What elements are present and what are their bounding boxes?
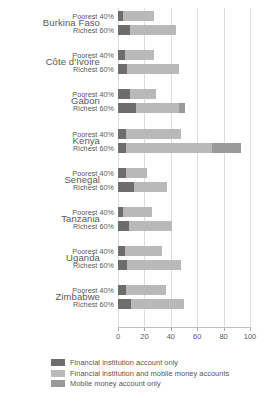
legend-swatch xyxy=(51,370,65,377)
bar-segment[interactable] xyxy=(118,50,125,60)
bar-segment[interactable] xyxy=(126,143,212,153)
quintile-label: Richest 60% xyxy=(62,144,114,153)
quintile-label: Richest 60% xyxy=(62,183,114,192)
legend-label: Financial institution account only xyxy=(70,358,178,367)
bar-segment[interactable] xyxy=(118,299,131,309)
stacked-bar[interactable] xyxy=(118,246,162,256)
stacked-bar[interactable] xyxy=(118,25,176,35)
bar-segment[interactable] xyxy=(118,260,127,270)
stacked-bar[interactable] xyxy=(118,285,166,295)
x-axis-tick xyxy=(118,328,119,331)
stacked-bar[interactable] xyxy=(118,299,184,309)
quintile-label: Poorest 40% xyxy=(62,51,114,60)
quintile-label: Richest 60% xyxy=(62,261,114,270)
stacked-bar[interactable] xyxy=(118,129,181,139)
bar-segment[interactable] xyxy=(118,221,129,231)
bar-segment[interactable] xyxy=(134,182,167,192)
bar-segment[interactable] xyxy=(118,143,126,153)
legend-item[interactable]: Financial institution account only xyxy=(51,358,178,367)
bar-row[interactable]: Richest 60% xyxy=(0,181,264,195)
x-axis-tick xyxy=(171,328,172,331)
bar-segment[interactable] xyxy=(127,64,178,74)
stacked-bar[interactable] xyxy=(118,168,147,178)
bar-row[interactable]: Poorest 40% xyxy=(0,10,264,24)
stacked-bar[interactable] xyxy=(118,207,152,217)
bar-segment[interactable] xyxy=(125,50,154,60)
quintile-label: Richest 60% xyxy=(62,65,114,74)
bar-segment[interactable] xyxy=(118,89,130,99)
bar-segment[interactable] xyxy=(129,221,173,231)
x-axis-tick-label: 100 xyxy=(238,332,262,341)
x-axis-line xyxy=(118,327,251,328)
stacked-bar[interactable] xyxy=(118,143,241,153)
bar-segment[interactable] xyxy=(136,103,178,113)
bar-row[interactable]: Richest 60% xyxy=(0,259,264,273)
country-group: Burkina FasoPoorest 40%Richest 60% xyxy=(0,10,264,49)
bar-row[interactable]: Richest 60% xyxy=(0,220,264,234)
x-axis-tick xyxy=(197,328,198,331)
x-axis-tick xyxy=(250,328,251,331)
bar-segment[interactable] xyxy=(123,207,152,217)
bar-segment[interactable] xyxy=(118,285,126,295)
stacked-bar[interactable] xyxy=(118,64,179,74)
bar-segment[interactable] xyxy=(123,11,153,21)
stacked-bar[interactable] xyxy=(118,11,154,21)
x-axis-tick-label: 40 xyxy=(159,332,183,341)
bar-row[interactable]: Poorest 40% xyxy=(0,284,264,298)
x-axis-tick-label: 60 xyxy=(185,332,209,341)
bar-segment[interactable] xyxy=(126,168,147,178)
bar-row[interactable]: Richest 60% xyxy=(0,102,264,116)
stacked-bar-chart: 020406080100Burkina FasoPoorest 40%Riche… xyxy=(0,0,264,405)
stacked-bar[interactable] xyxy=(118,221,172,231)
quintile-label: Poorest 40% xyxy=(62,169,114,178)
legend-swatch xyxy=(51,359,65,366)
bar-row[interactable]: Richest 60% xyxy=(0,63,264,77)
quintile-label: Poorest 40% xyxy=(62,286,114,295)
x-axis-tick xyxy=(144,328,145,331)
bar-row[interactable]: Richest 60% xyxy=(0,142,264,156)
quintile-label: Richest 60% xyxy=(62,222,114,231)
bar-segment[interactable] xyxy=(130,25,176,35)
quintile-label: Poorest 40% xyxy=(62,12,114,21)
stacked-bar[interactable] xyxy=(118,260,181,270)
bar-segment[interactable] xyxy=(127,260,181,270)
bar-segment[interactable] xyxy=(118,246,125,256)
country-group: ZimbabwePoorest 40%Richest 60% xyxy=(0,284,264,323)
x-axis-tick-label: 20 xyxy=(132,332,156,341)
country-group: SenegalPoorest 40%Richest 60% xyxy=(0,167,264,206)
legend-item[interactable]: Financial institution and mobile money a… xyxy=(51,369,229,378)
stacked-bar[interactable] xyxy=(118,50,154,60)
country-group: TanzaniaPoorest 40%Richest 60% xyxy=(0,206,264,245)
quintile-label: Richest 60% xyxy=(62,300,114,309)
bar-segment[interactable] xyxy=(131,299,184,309)
stacked-bar[interactable] xyxy=(118,182,167,192)
bar-segment[interactable] xyxy=(118,182,134,192)
stacked-bar[interactable] xyxy=(118,103,185,113)
bar-segment[interactable] xyxy=(130,89,156,99)
bar-row[interactable]: Poorest 40% xyxy=(0,167,264,181)
bar-segment[interactable] xyxy=(126,129,181,139)
legend-item[interactable]: Mobile money account only xyxy=(51,379,161,388)
bar-segment[interactable] xyxy=(179,103,186,113)
bar-row[interactable]: Richest 60% xyxy=(0,24,264,38)
x-axis-tick-label: 80 xyxy=(212,332,236,341)
quintile-label: Poorest 40% xyxy=(62,247,114,256)
bar-segment[interactable] xyxy=(126,285,166,295)
bar-segment[interactable] xyxy=(118,103,136,113)
x-axis-tick xyxy=(224,328,225,331)
bar-row[interactable]: Poorest 40% xyxy=(0,88,264,102)
bar-segment[interactable] xyxy=(118,168,126,178)
stacked-bar[interactable] xyxy=(118,89,156,99)
bar-row[interactable]: Poorest 40% xyxy=(0,128,264,142)
country-group: KenyaPoorest 40%Richest 60% xyxy=(0,128,264,167)
quintile-label: Richest 60% xyxy=(62,26,114,35)
bar-row[interactable]: Poorest 40% xyxy=(0,49,264,63)
bar-row[interactable]: Poorest 40% xyxy=(0,245,264,259)
bar-segment[interactable] xyxy=(118,129,126,139)
bar-row[interactable]: Poorest 40% xyxy=(0,206,264,220)
bar-segment[interactable] xyxy=(125,246,162,256)
bar-segment[interactable] xyxy=(212,143,241,153)
bar-segment[interactable] xyxy=(118,64,127,74)
bar-row[interactable]: Richest 60% xyxy=(0,298,264,312)
bar-segment[interactable] xyxy=(118,25,130,35)
